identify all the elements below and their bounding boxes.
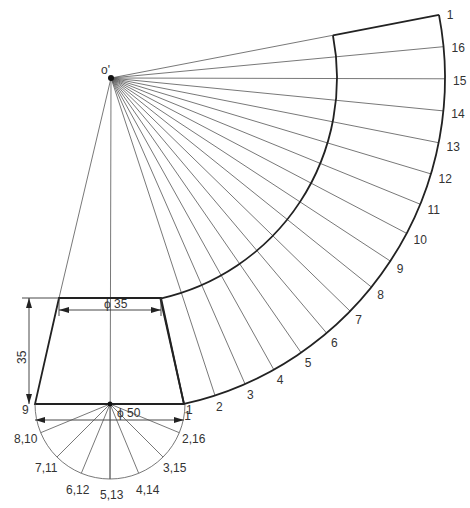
development-point-label: 1 <box>447 8 454 22</box>
base-point-label: 5,13 <box>100 488 124 502</box>
generator-ray <box>111 78 371 287</box>
labels: o' ϕ 35 ϕ 50 35 <box>15 63 141 420</box>
generator-ray <box>111 47 444 78</box>
center-point-icon <box>108 402 113 407</box>
base-half-circle <box>35 75 185 479</box>
arrow-icon <box>151 307 161 313</box>
left-generator-line <box>59 78 111 298</box>
height-label: 35 <box>15 350 29 364</box>
development-point-label: 16 <box>451 41 465 55</box>
generator-ray <box>111 78 301 353</box>
arrow-icon <box>174 417 184 423</box>
base-point-label: 2,16 <box>182 432 206 446</box>
frustum-outline <box>35 298 184 404</box>
generator-ray <box>333 15 439 35</box>
development-point-label: 9 <box>397 262 404 276</box>
generator-ray <box>111 78 245 384</box>
front-view-frustum <box>22 78 184 479</box>
generator-ray <box>111 78 443 111</box>
outer-arc <box>184 15 445 404</box>
development-point-label: 7 <box>355 313 362 327</box>
base-point-label: 9 <box>22 403 29 417</box>
development-point-label: 14 <box>451 107 465 121</box>
development-point-label: 11 <box>427 203 440 217</box>
development-labels: 123456789101112131415161 <box>184 8 467 423</box>
development-point-label: 10 <box>414 233 428 247</box>
bottom-diameter-label: ϕ 50 <box>117 406 141 420</box>
development-point-label: 12 <box>439 172 453 186</box>
cone-development-diagram: o' ϕ 35 ϕ 50 35 123456789101112131415161… <box>0 0 470 508</box>
inner-arc <box>160 35 337 298</box>
development-point-label: 8 <box>377 288 384 302</box>
base-point-label: 6,12 <box>66 483 90 497</box>
development-point-label: 5 <box>305 356 312 370</box>
generator-ray <box>111 78 407 233</box>
generator-ray <box>111 78 350 311</box>
base-point-label: 7,11 <box>35 461 58 475</box>
generator-ray <box>111 78 327 333</box>
generator-ray <box>111 78 445 79</box>
development-point-label: 3 <box>247 388 254 402</box>
development-point-label: 2 <box>216 400 223 414</box>
base-point-label: 8,10 <box>14 432 38 446</box>
generator-ray <box>111 78 420 204</box>
base-division-line <box>57 404 110 457</box>
development-point-label: 4 <box>277 373 284 387</box>
top-diameter-label: ϕ 35 <box>104 297 128 311</box>
development-point-label: 15 <box>453 74 467 88</box>
development-arcs <box>160 15 445 404</box>
base-point-label: 1 <box>186 403 193 417</box>
development-point-label: 13 <box>446 140 460 154</box>
base-point-label: 4,14 <box>136 483 160 497</box>
arrow-icon <box>26 298 32 308</box>
generator-ray <box>111 35 333 78</box>
generator-ray <box>111 78 431 174</box>
base-point-label: 3,15 <box>163 461 187 475</box>
development-point-label: 6 <box>331 336 338 350</box>
arrow-icon <box>59 307 69 313</box>
apex-label: o' <box>101 63 110 77</box>
radial-generator-lines <box>111 15 445 404</box>
